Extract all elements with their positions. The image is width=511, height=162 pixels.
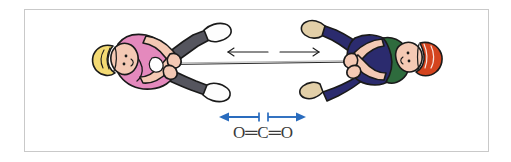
figure-canvas: O═C═O [0, 0, 511, 162]
molecule-formula-label: O═C═O [215, 124, 311, 142]
